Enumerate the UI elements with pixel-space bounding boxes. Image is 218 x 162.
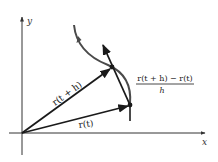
point-r-t	[128, 103, 133, 108]
label-r-t: r(t)	[78, 118, 94, 130]
vector-derivative-diagram: y x r(t + h) r(t) r(t + h) − r(t) h	[0, 0, 218, 162]
x-axis-label: x	[202, 137, 207, 147]
quotient-denominator: h	[159, 86, 164, 95]
y-axis-label: y	[26, 16, 33, 26]
secant-vector	[103, 45, 130, 105]
label-r-t-plus-h: r(t + h)	[50, 80, 83, 108]
vector-r-t-plus-h	[22, 69, 110, 133]
space-curve	[74, 25, 130, 121]
point-r-t-plus-h	[110, 65, 115, 70]
vector-r-t	[22, 106, 128, 133]
quotient-numerator: r(t + h) − r(t)	[137, 74, 192, 83]
